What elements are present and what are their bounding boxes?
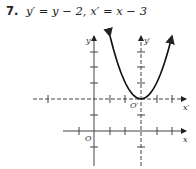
- x-axis: [63, 127, 186, 135]
- x-axis-label: x: [183, 135, 188, 144]
- y-axis: [90, 36, 98, 166]
- x-prime-axis: [33, 95, 186, 103]
- x-prime-axis-label: x′: [183, 103, 190, 112]
- coordinate-figure: y y′ x′ x O O′: [0, 0, 196, 169]
- y-prime-axis-label: y′: [143, 36, 151, 45]
- origin-label: O: [85, 134, 92, 143]
- origin-prime-label: O′: [130, 101, 139, 110]
- y-axis-label: y: [85, 36, 91, 45]
